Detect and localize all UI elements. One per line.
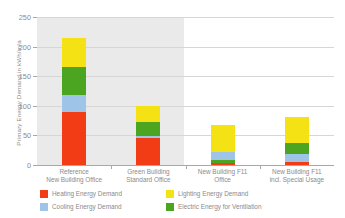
bar-segment	[136, 122, 160, 136]
chart-legend: Heating Energy DemandLighting Energy Dem…	[40, 189, 340, 215]
y-tick-label: 200	[6, 43, 31, 52]
y-tick-mark	[33, 17, 37, 18]
x-axis-label: ReferenceNew Building Office	[31, 168, 117, 184]
legend-label: Cooling Energy Demand	[52, 203, 122, 211]
x-axis-label-line2: Office	[180, 176, 266, 184]
y-tick-label: 100	[6, 102, 31, 111]
legend-color-swatch	[166, 190, 174, 198]
x-axis-label-line1: Green Building	[105, 168, 191, 176]
energy-demand-bar-chart: Primary Energy Demand in kWh/m²a 0501001…	[0, 0, 345, 218]
legend-item[interactable]: Cooling Energy Demand	[40, 202, 122, 212]
bar-stack	[62, 38, 86, 165]
y-tick-label: 250	[6, 13, 31, 22]
legend-item[interactable]: Heating Energy Demand	[40, 189, 122, 199]
legend-label: Heating Energy Demand	[52, 190, 122, 198]
y-tick-label: 150	[6, 72, 31, 81]
bar-segment	[62, 95, 86, 112]
bar-segment	[211, 152, 235, 160]
y-tick-label: 50	[6, 131, 31, 140]
x-axis-label: New Building F11incl. Special Usage	[254, 168, 340, 184]
legend-item[interactable]: Electric Energy for Ventilation	[166, 202, 261, 212]
y-tick-mark	[33, 106, 37, 107]
bar-stack	[285, 117, 309, 166]
y-tick-mark	[33, 76, 37, 77]
bar-stack	[136, 106, 160, 165]
legend-label: Lighting Energy Demand	[178, 190, 248, 198]
shaded-comparison-panel	[37, 17, 184, 165]
bar-segment	[285, 117, 309, 144]
x-axis-label: New Building F11Office	[180, 168, 266, 184]
x-axis-label-line1: New Building F11	[180, 168, 266, 176]
y-axis-title: Primary Energy Demand in kWh/m²a	[13, 18, 25, 168]
legend-item[interactable]: Lighting Energy Demand	[166, 189, 248, 199]
x-axis-label-line1: New Building F11	[254, 168, 340, 176]
y-tick-mark	[33, 47, 37, 48]
legend-color-swatch	[40, 190, 48, 198]
bar-segment	[285, 154, 309, 162]
bar-stack	[211, 125, 235, 165]
x-axis-label-line2: New Building Office	[31, 176, 117, 184]
x-axis-label-line1: Reference	[31, 168, 117, 176]
bar-segment	[285, 143, 309, 154]
x-axis-labels: ReferenceNew Building OfficeGreen Buildi…	[37, 168, 334, 188]
x-axis-label-line2: incl. Special Usage	[254, 176, 340, 184]
x-axis-label-line2: Standard Office	[105, 176, 191, 184]
bar-segment	[62, 38, 86, 68]
legend-color-swatch	[166, 203, 174, 211]
bar-segment	[136, 138, 160, 165]
plot-area: 050100150200250	[37, 17, 334, 165]
y-tick-mark	[33, 135, 37, 136]
bar-segment	[136, 106, 160, 123]
legend-color-swatch	[40, 203, 48, 211]
legend-label: Electric Energy for Ventilation	[178, 203, 261, 211]
gridline	[37, 17, 334, 18]
y-tick-label: 0	[6, 161, 31, 170]
x-axis-label: Green BuildingStandard Office	[105, 168, 191, 184]
bar-segment	[211, 125, 235, 152]
bar-segment	[62, 67, 86, 95]
bar-segment	[62, 112, 86, 165]
